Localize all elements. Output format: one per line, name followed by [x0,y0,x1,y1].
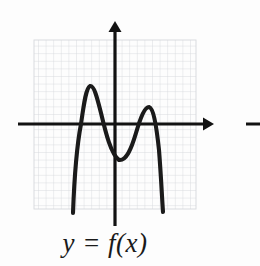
graph-figure: y = f(x) [0,0,260,266]
function-caption: y = f(x) [0,226,210,260]
